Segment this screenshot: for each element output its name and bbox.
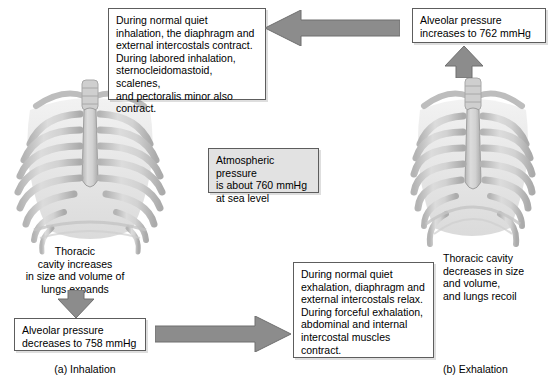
alveolar-pressure-increase-box: Alveolar pressure increases to 762 mmHg [412,8,546,43]
exhalation-muscles-box: During normal quiet exhalation, diaphrag… [293,262,434,358]
arrow-right-icon [155,316,291,352]
arrow-left-icon [265,10,400,46]
ribcage-recoiled-icon [390,62,555,257]
arrow-down-icon [58,290,94,318]
arrow-up-icon [445,46,483,78]
thoracic-cavity-decreases-caption: Thoracic cavity decreases in size and vo… [443,252,553,302]
thoracic-cavity-increases-caption: Thoracic cavity increases in size and vo… [10,245,140,295]
panel-label-inhalation: (a) Inhalation [20,363,150,375]
alveolar-pressure-decrease-box: Alveolar pressure decreases to 758 mmHg [14,318,146,351]
atmospheric-pressure-box: Atmospheric pressure is about 760 mmHg a… [208,148,319,193]
panel-label-exhalation: (b) Exhalation [443,363,553,375]
inhalation-muscles-box: During normal quiet inhalation, the diap… [108,8,266,100]
respiration-diagram: During normal quiet inhalation, the diap… [0,0,555,383]
